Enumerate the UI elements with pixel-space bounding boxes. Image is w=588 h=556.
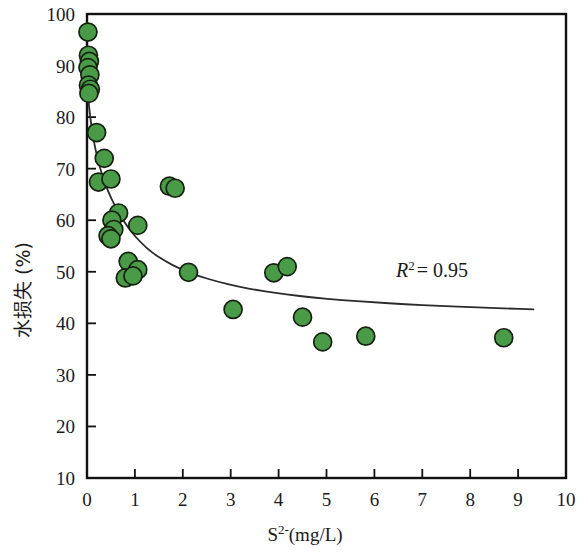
data-point-marker (180, 263, 198, 281)
y-tick-label: 30 (56, 365, 75, 386)
y-tick-label: 100 (47, 4, 76, 25)
data-point-marker (357, 327, 375, 345)
data-point-marker (124, 267, 142, 285)
plot-svg: 102030405060708090100 012345678910 R2= 0… (0, 0, 588, 556)
x-title-sup: 2- (278, 522, 289, 537)
data-point-marker (88, 124, 106, 142)
data-point-marker (278, 258, 296, 276)
data-point-marker (166, 179, 184, 197)
data-point-marker (102, 230, 120, 248)
data-point-marker (495, 329, 513, 347)
data-point-marker (95, 149, 113, 167)
y-tick-label: 60 (56, 210, 75, 231)
r-exponent: 2 (408, 258, 415, 273)
data-point-marker (79, 23, 97, 41)
x-tick-label: 10 (557, 489, 576, 510)
x-tick-label: 8 (465, 489, 475, 510)
data-point-marker (314, 333, 332, 351)
y-tick-label: 70 (56, 159, 75, 180)
x-tick-label: 6 (370, 489, 380, 510)
data-point-marker (102, 170, 120, 188)
x-tick-label: 2 (178, 489, 188, 510)
y-axis-title: 水损失 (%) (12, 242, 34, 338)
data-point-marker (294, 308, 312, 326)
x-tick-label: 3 (226, 489, 236, 510)
x-tick-label: 5 (322, 489, 332, 510)
y-tick-label: 80 (56, 107, 75, 128)
y-tick-label: 10 (56, 468, 75, 489)
x-title-base: S (267, 524, 278, 545)
x-tick-label: 4 (274, 489, 284, 510)
r-value: = 0.95 (417, 259, 468, 281)
x-tick-label: 7 (418, 489, 428, 510)
y-tick-label: 40 (56, 313, 75, 334)
x-tick-label: 0 (82, 489, 92, 510)
r-letter: R (395, 259, 408, 281)
data-point-marker (80, 84, 98, 102)
scatter-chart: 102030405060708090100 012345678910 R2= 0… (0, 0, 588, 556)
y-tick-label: 20 (56, 416, 75, 437)
r-squared-annotation: R2= 0.95 (395, 258, 468, 281)
x-tick-label: 1 (130, 489, 140, 510)
x-title-rest: (mg/L) (289, 524, 343, 546)
data-point-marker (129, 216, 147, 234)
data-point-marker (224, 300, 242, 318)
y-tick-label: 90 (56, 56, 75, 77)
x-tick-label: 9 (513, 489, 523, 510)
y-tick-label: 50 (56, 262, 75, 283)
